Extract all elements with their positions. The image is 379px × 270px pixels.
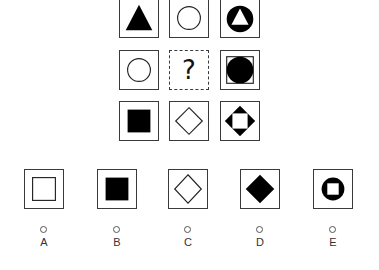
matrix-cell-r1c1 xyxy=(119,0,159,38)
option-a-radio[interactable] xyxy=(40,226,47,233)
matrix-cell-r1c3 xyxy=(220,0,260,38)
option-c-radio[interactable] xyxy=(184,226,191,233)
filled-triangle-icon xyxy=(120,0,158,37)
option-c-label: C xyxy=(178,236,198,248)
matrix-cell-r2c3 xyxy=(220,50,260,90)
option-a-figure[interactable] xyxy=(24,169,64,209)
square-with-black-circle-icon xyxy=(221,51,259,89)
filled-square-icon xyxy=(120,102,158,140)
outline-diamond-icon xyxy=(169,170,207,208)
circle-with-white-square-icon xyxy=(314,170,352,208)
option-d-figure[interactable] xyxy=(240,169,280,209)
matrix-cell-r2c1 xyxy=(119,50,159,90)
filled-square-icon xyxy=(98,170,136,208)
option-d-label: D xyxy=(250,236,270,248)
filled-diamond-icon xyxy=(241,170,279,208)
circle-with-triangle-icon xyxy=(221,0,259,37)
option-c-figure[interactable] xyxy=(168,169,208,209)
option-e-figure[interactable] xyxy=(313,169,353,209)
matrix-cell-missing: ? xyxy=(169,50,209,90)
diamond-with-white-square-icon xyxy=(221,102,259,140)
option-a-label: A xyxy=(34,236,54,248)
matrix-cell-r1c2 xyxy=(169,0,209,38)
matrix-cell-r3c2 xyxy=(169,101,209,141)
option-d-radio[interactable] xyxy=(256,226,263,233)
outline-circle-icon xyxy=(170,0,208,37)
option-b-radio[interactable] xyxy=(113,226,120,233)
outline-square-icon xyxy=(25,170,63,208)
outline-circle-icon xyxy=(120,51,158,89)
option-b-figure[interactable] xyxy=(97,169,137,209)
option-e-radio[interactable] xyxy=(329,226,336,233)
outline-diamond-icon xyxy=(170,102,208,140)
option-e-label: E xyxy=(323,236,343,248)
matrix-cell-r3c3 xyxy=(220,101,260,141)
option-b-label: B xyxy=(107,236,127,248)
question-mark: ? xyxy=(170,51,208,89)
matrix-cell-r3c1 xyxy=(119,101,159,141)
